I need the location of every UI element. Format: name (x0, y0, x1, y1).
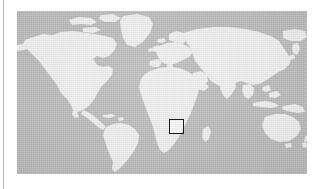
figure-canvas (0, 0, 324, 189)
world-locator-map (17, 11, 307, 174)
world-map-graphic (17, 11, 307, 174)
region-of-interest-box (169, 119, 184, 134)
page-left-rule (3, 0, 4, 189)
asia-land (283, 29, 307, 41)
